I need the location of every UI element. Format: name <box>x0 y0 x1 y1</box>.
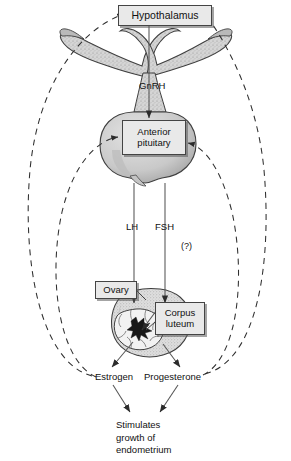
label-gnrh: GnRH <box>139 80 165 91</box>
label-estrogen: Estrogen <box>95 371 133 382</box>
pituitary-stalk <box>134 73 166 112</box>
label-lh: LH <box>126 221 138 232</box>
feedback-progesterone-to-hypothalamus <box>205 14 266 374</box>
label-box-anterior-pituitary[interactable]: Anterior pituitary <box>122 120 186 155</box>
label-box-ovary[interactable]: Ovary <box>95 281 137 299</box>
diagram-artwork <box>0 0 291 461</box>
diagram-canvas: Hypothalamus Anterior pituitary Ovary Co… <box>0 0 291 461</box>
label-endometrium-effect: Stimulates growth of endometrium <box>116 419 171 457</box>
arrow-progesterone-to-endometrium <box>160 385 178 412</box>
label-progesterone: Progesterone <box>144 371 201 382</box>
label-box-hypothalamus[interactable]: Hypothalamus <box>118 5 212 26</box>
label-question-mark: (?) <box>181 241 192 251</box>
hypothalamus-organ <box>60 29 232 76</box>
feedback-progesterone-to-pituitary <box>188 143 239 375</box>
label-box-corpus-luteum[interactable]: Corpus luteum <box>155 302 205 335</box>
feedback-estrogen-to-pituitary <box>56 137 118 377</box>
label-fsh: FSH <box>155 221 174 232</box>
feedback-estrogen-to-hypothalamus <box>28 14 124 376</box>
arrow-estrogen-to-endometrium <box>113 385 130 412</box>
